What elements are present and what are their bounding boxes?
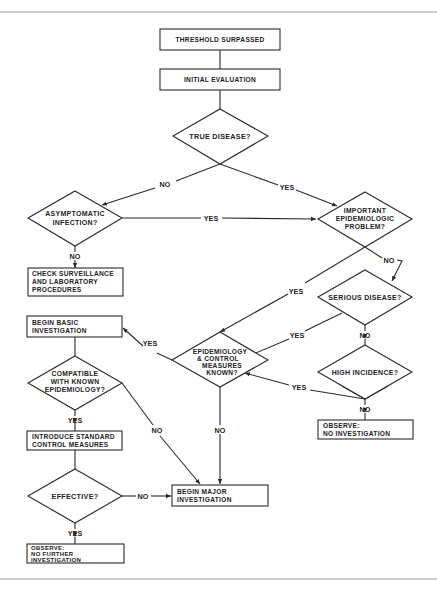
svg-text:EPIDEMIOLOGIC: EPIDEMIOLOGIC [336,215,395,222]
svg-text:CONTROL MEASURES: CONTROL MEASURES [32,441,109,448]
svg-text:EPIDEMIOLOGY: EPIDEMIOLOGY [193,348,248,355]
svg-text:OBSERVE:: OBSERVE: [323,422,360,429]
svg-text:PROCEDURES: PROCEDURES [32,286,82,293]
svg-text:COMPATIBLE: COMPATIBLE [52,370,99,377]
svg-text:IMPORTANT: IMPORTANT [344,207,387,214]
svg-text:EFFECTIVE?: EFFECTIVE? [52,492,99,501]
svg-text:EPIDEMIOLOGY?: EPIDEMIOLOGY? [45,386,106,393]
node-begin-basic-investigation: BEGIN BASIC INVESTIGATION [27,316,122,337]
label-high-yes: YES [292,383,307,392]
svg-text:WITH KNOWN: WITH KNOWN [51,378,100,385]
label-epi-yes: YES [143,339,158,348]
label-asym-yes: YES [204,214,219,223]
decision-serious-disease: SERIOUS DISEASE? [318,270,412,325]
svg-text:INTRODUCE STANDARD: INTRODUCE STANDARD [32,433,115,440]
node-initial-evaluation: INITIAL EVALUATION [160,69,280,90]
decision-high-incidence: HIGH INCIDENCE? [318,345,412,399]
svg-text:KNOWN?: KNOWN? [206,369,237,376]
decision-compatible-known-epidemiology: COMPATIBLE WITH KNOWN EPIDEMIOLOGY? [28,356,122,410]
flowchart-canvas: THRESHOLD SURPASSED INITIAL EVALUATION T… [0,0,437,595]
node-begin-major-investigation: BEGIN MAJOR INVESTIGATION [172,485,268,506]
label-epi-no: NO [215,426,226,435]
svg-text:MEASURES: MEASURES [202,362,242,369]
svg-text:TRUE DISEASE?: TRUE DISEASE? [189,132,250,141]
svg-text:HIGH INCIDENCE?: HIGH INCIDENCE? [332,369,399,376]
node-observe-no-further-investigation: OBSERVE: NO FURTHER INVESTIGATION [27,544,124,563]
decision-asymptomatic-infection: ASYMPTOMATIC INFECTION? [28,191,122,246]
svg-text:ASYMPTOMATIC: ASYMPTOMATIC [45,210,105,217]
svg-text:SERIOUS DISEASE?: SERIOUS DISEASE? [328,294,401,301]
decision-effective: EFFECTIVE? [28,469,122,523]
label-eff-no: NO [138,492,149,501]
label-eff-yes: YES [68,529,83,538]
label-compat-yes: YES [68,416,83,425]
decision-true-disease: TRUE DISEASE? [173,109,268,164]
svg-text:PROBLEM?: PROBLEM? [345,223,386,230]
label-compat-no: NO [152,426,163,435]
label-imp-yes: YES [289,287,304,296]
svg-text:BEGIN BASIC: BEGIN BASIC [32,319,79,326]
svg-text:INVESTIGATION: INVESTIGATION [177,496,232,503]
svg-text:AND LABORATORY: AND LABORATORY [32,278,98,285]
decision-epidemiology-control-known: EPIDEMIOLOGY & CONTROL MEASURES KNOWN? [172,332,268,387]
svg-text:NO INVESTIGATION: NO INVESTIGATION [323,430,390,437]
node-check-surveillance: CHECK SURVEILLANCE AND LABORATORY PROCED… [28,268,123,296]
label-serious-yes: YES [290,331,305,340]
label-serious-no: NO [360,331,371,340]
svg-text:& CONTROL: & CONTROL [197,355,239,362]
label-imp-no: NO [384,256,395,265]
svg-text:THRESHOLD SURPASSED: THRESHOLD SURPASSED [175,36,264,43]
label-asym-no: NO [70,252,81,261]
node-introduce-standard-control: INTRODUCE STANDARD CONTROL MEASURES [27,431,122,450]
svg-text:INVESTIGATION: INVESTIGATION [31,557,81,563]
svg-text:INVESTIGATION: INVESTIGATION [32,327,87,334]
label-high-no: NO [360,405,371,414]
label-true-yes: YES [280,183,295,192]
node-threshold-surpassed: THRESHOLD SURPASSED [160,29,280,50]
svg-text:CHECK SURVEILLANCE: CHECK SURVEILLANCE [32,270,114,277]
svg-text:INFECTION?: INFECTION? [53,219,98,226]
svg-text:INITIAL EVALUATION: INITIAL EVALUATION [184,76,256,83]
decision-important-epidemiologic-problem: IMPORTANT EPIDEMIOLOGIC PROBLEM? [318,192,412,247]
node-observe-no-investigation: OBSERVE: NO INVESTIGATION [318,420,413,439]
label-true-no: NO [160,180,171,189]
svg-text:BEGIN MAJOR: BEGIN MAJOR [177,488,227,495]
